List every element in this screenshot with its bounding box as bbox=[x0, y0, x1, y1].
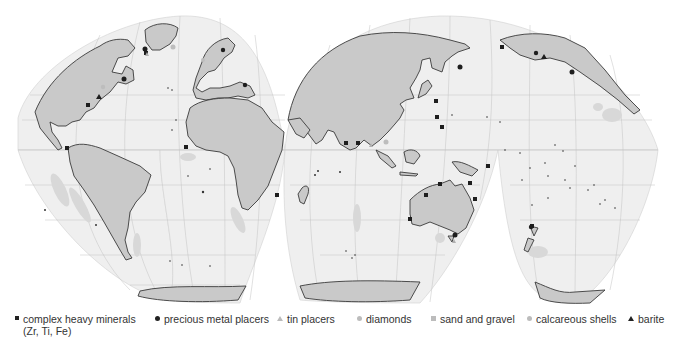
legend-label: complex heavy minerals bbox=[23, 313, 136, 325]
light-dot-marker-icon bbox=[357, 316, 362, 321]
square-marker-icon bbox=[15, 316, 19, 320]
legend-label: tin placers bbox=[287, 313, 335, 325]
legend-label: diamonds bbox=[366, 313, 412, 325]
legend-item-precious-metal-placers: precious metal placers bbox=[155, 313, 269, 325]
legend-item-tin-placers: tin placers bbox=[277, 313, 335, 325]
legend-label: barite bbox=[638, 313, 664, 325]
legend-item-complex-heavy-minerals: complex heavy minerals (Zr, Ti, Fe) bbox=[15, 313, 136, 337]
light-dot-marker-icon bbox=[527, 316, 532, 321]
legend-sublabel: (Zr, Ti, Fe) bbox=[23, 325, 136, 337]
antarctica-east bbox=[300, 281, 420, 302]
light-square-marker-icon bbox=[431, 316, 436, 321]
light-triangle-marker-icon bbox=[277, 316, 283, 321]
map-legend: complex heavy minerals (Zr, Ti, Fe) prec… bbox=[0, 313, 674, 343]
dot-marker-icon bbox=[155, 316, 160, 321]
legend-item-barite: barite bbox=[628, 313, 664, 325]
antarctica-west bbox=[138, 286, 246, 302]
ocean-lobe-sp bbox=[498, 150, 658, 303]
legend-label: calcareous shells bbox=[536, 313, 617, 325]
legend-label: sand and gravel bbox=[440, 313, 515, 325]
legend-label: precious metal placers bbox=[164, 313, 269, 325]
legend-item-sand-and-gravel: sand and gravel bbox=[431, 313, 515, 325]
dark-triangle-marker-icon bbox=[628, 316, 634, 321]
world-map bbox=[0, 0, 674, 305]
legend-item-calcareous-shells: calcareous shells bbox=[527, 313, 617, 325]
legend-item-diamonds: diamonds bbox=[357, 313, 412, 325]
